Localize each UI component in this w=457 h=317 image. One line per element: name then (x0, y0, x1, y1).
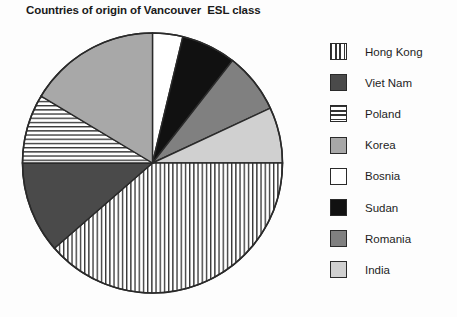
legend-item-viet-nam[interactable]: Viet Nam (330, 67, 454, 98)
legend-swatch-icon (330, 168, 347, 185)
chart-legend: Hong KongViet NamPolandKoreaBosniaSudanR… (330, 36, 454, 286)
legend-item-hong-kong[interactable]: Hong Kong (330, 36, 454, 67)
legend-item-korea[interactable]: Korea (330, 130, 454, 161)
pie-slice-group (23, 33, 283, 293)
pie-chart-area (0, 0, 310, 317)
legend-swatch-icon (330, 43, 347, 60)
legend-swatch-icon (330, 105, 347, 122)
legend-item-label: Viet Nam (365, 77, 412, 89)
legend-item-label: Hong Kong (365, 46, 423, 58)
legend-swatch-icon (330, 199, 347, 216)
legend-item-label: Sudan (365, 202, 398, 214)
legend-item-bosnia[interactable]: Bosnia (330, 161, 454, 192)
legend-item-label: Romania (365, 233, 411, 245)
legend-item-label: Bosnia (365, 170, 400, 182)
legend-swatch-icon (330, 74, 347, 91)
legend-item-sudan[interactable]: Sudan (330, 192, 454, 223)
legend-item-label: India (365, 264, 390, 276)
legend-item-poland[interactable]: Poland (330, 98, 454, 129)
legend-swatch-icon (330, 261, 347, 278)
legend-swatch-icon (330, 137, 347, 154)
legend-item-label: Poland (365, 108, 401, 120)
legend-item-india[interactable]: India (330, 254, 454, 285)
legend-swatch-icon (330, 230, 347, 247)
pie-chart-svg (0, 0, 310, 317)
chart-page: Countries of origin of Vancouver ESL cla… (0, 0, 457, 317)
legend-item-label: Korea (365, 139, 396, 151)
legend-item-romania[interactable]: Romania (330, 223, 454, 254)
